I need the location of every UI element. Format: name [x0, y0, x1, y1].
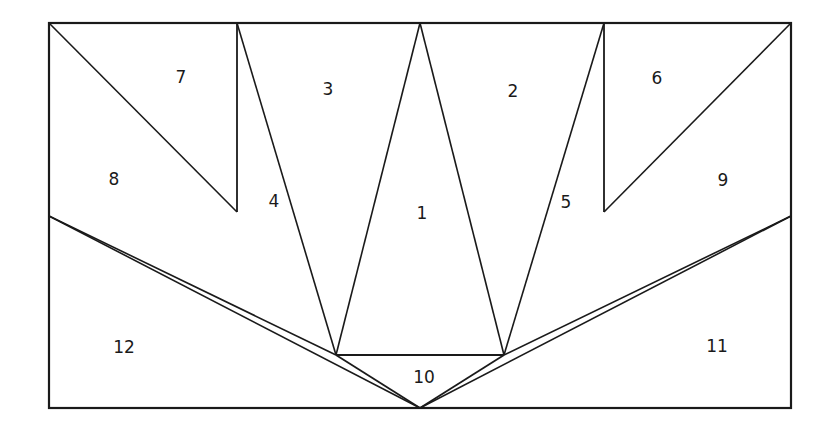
region-9-label: 9 [718, 170, 729, 190]
region-4-label: 4 [269, 191, 280, 211]
region-1-label: 1 [417, 203, 428, 223]
diagram-canvas: 123456789101112 [0, 0, 835, 429]
region-7-label: 7 [176, 67, 187, 87]
region-10-label: 10 [413, 367, 435, 387]
region-11-label: 11 [706, 336, 728, 356]
region-3-label: 3 [323, 79, 334, 99]
region-8-label: 8 [109, 169, 120, 189]
region-2-label: 2 [508, 81, 519, 101]
region-12-label: 12 [113, 337, 135, 357]
fan-region-diagram: 123456789101112 [0, 0, 835, 429]
region-5-label: 5 [561, 192, 572, 212]
region-6-label: 6 [652, 68, 663, 88]
